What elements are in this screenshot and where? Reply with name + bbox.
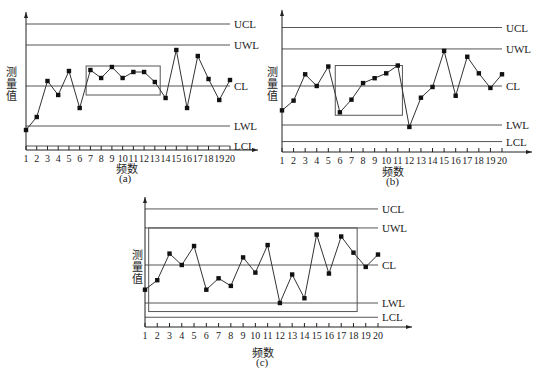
data-point-marker [110,65,114,69]
data-point-marker [45,79,49,83]
data-point-marker [364,265,368,269]
x-tick-label: 1 [280,155,285,166]
data-point-marker [351,250,355,254]
data-point-marker [278,301,282,305]
data-point-marker [291,98,295,102]
x-axis-arrow-icon [526,150,532,154]
y-axis-arrow-icon [24,12,28,18]
x-tick-label: 2 [155,330,160,341]
chart-c-ylabel: 测量值 [128,249,144,285]
x-tick-label: 20 [225,153,235,164]
x-tick-label: 19 [214,153,224,164]
x-tick-label: 4 [56,153,61,164]
x-tick-label: 19 [485,155,495,166]
control-chart-c: UCLUWLCLLWLLCL12345678910111213141516171… [130,185,430,373]
chart-a-caption: (a) [119,172,131,184]
data-point-marker [241,255,245,259]
data-point-marker [477,71,481,75]
data-point-marker [35,115,39,119]
data-point-marker [314,232,318,236]
x-tick-label: 6 [337,155,342,166]
x-tick-label: 7 [216,330,221,341]
data-point-marker [153,80,157,84]
data-point-marker [407,125,411,129]
x-tick-label: 6 [77,153,82,164]
x-tick-label: 20 [497,155,507,166]
data-point-marker [88,68,92,72]
x-tick-label: 13 [150,153,160,164]
data-point-marker [217,98,221,102]
x-tick-label: 1 [143,330,148,341]
y-axis-arrow-icon [280,10,284,16]
data-point-marker [338,110,342,114]
data-point-marker [442,49,446,53]
data-point-marker [67,69,71,73]
x-tick-label: 15 [171,153,181,164]
data-point-marker [419,96,423,100]
data-point-marker [167,251,171,255]
x-tick-label: 12 [139,153,149,164]
data-point-marker [99,76,103,80]
data-point-marker [327,271,331,275]
control-chart-a: UCLUWLCLLWLLCL12345678910111213141516171… [0,0,270,185]
data-point-marker [465,55,469,59]
control-line-label-lcl: LCL [382,311,403,323]
data-point-marker [185,106,189,110]
data-point-marker [192,244,196,248]
x-tick-label: 3 [45,153,50,164]
x-tick-label: 9 [109,153,114,164]
data-point-marker [326,64,330,68]
x-tick-label: 12 [404,155,414,166]
data-point-marker [361,81,365,85]
chart-b-ylabel: 测量值 [263,66,279,102]
x-tick-label: 18 [474,155,484,166]
x-tick-label: 18 [204,153,214,164]
data-point-marker [204,288,208,292]
control-line-label-lwl: LWL [382,297,405,309]
data-point-marker [216,276,220,280]
data-point-marker [77,106,81,110]
x-tick-label: 17 [462,155,472,166]
chart-c-plot: UCLUWLCLLWLLCL12345678910111213141516171… [130,185,430,373]
data-point-marker [396,63,400,67]
data-point-marker [253,270,257,274]
control-line-label-cl: CL [506,80,520,92]
x-tick-label: 11 [263,330,273,341]
data-point-marker [143,288,147,292]
data-point-marker [228,78,232,82]
highlight-box [86,66,160,95]
x-tick-label: 8 [99,153,104,164]
data-point-marker [196,54,200,58]
chart-c-caption: (c) [256,356,268,368]
control-line-label-ucl: UCL [234,18,256,30]
y-axis-arrow-icon [143,197,147,203]
x-tick-label: 12 [275,330,285,341]
x-tick-label: 3 [303,155,308,166]
data-point-marker [131,70,135,74]
control-line-label-lcl: LCL [506,136,527,148]
control-line-label-ucl: UCL [382,203,404,215]
x-tick-label: 5 [66,153,71,164]
series-line [145,235,378,303]
x-tick-label: 17 [336,330,346,341]
data-point-marker [24,128,28,132]
x-axis-arrow-icon [406,325,412,329]
chart-a-ylabel: 测量值 [2,66,18,102]
data-point-marker [120,76,124,80]
highlight-box [335,66,402,116]
data-point-marker [229,284,233,288]
x-tick-label: 7 [88,153,93,164]
control-line-label-ucl: UCL [506,22,528,34]
x-tick-label: 9 [241,330,246,341]
x-tick-label: 4 [179,330,184,341]
x-tick-label: 2 [291,155,296,166]
x-tick-label: 3 [167,330,172,341]
data-point-marker [290,272,294,276]
x-tick-label: 19 [361,330,371,341]
data-point-marker [488,86,492,90]
control-line-label-uwl: UWL [382,222,407,234]
x-tick-label: 13 [287,330,297,341]
data-point-marker [376,252,380,256]
data-point-marker [206,77,210,81]
x-tick-label: 10 [250,330,260,341]
